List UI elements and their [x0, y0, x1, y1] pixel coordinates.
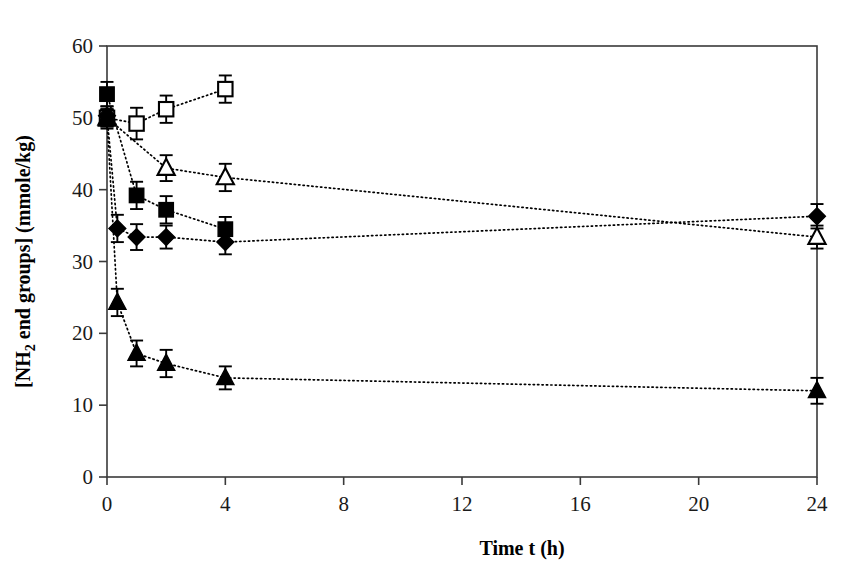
plot-frame [107, 46, 817, 477]
y-axis-tick-label: 10 [72, 393, 93, 417]
data-point-filled-diamond [128, 229, 145, 246]
x-axis-tick-label: 0 [102, 492, 113, 516]
chart-figure: 010203040506004812162024Time t (h)[NH2 e… [0, 0, 857, 579]
data-markers-group [98, 82, 825, 398]
x-axis-tick-label: 8 [338, 492, 349, 516]
y-axis-title: [NH2 end groups] (mmole/kg) [12, 135, 38, 388]
x-axis-tick-label: 12 [452, 492, 473, 516]
series-line-open-triangle [107, 118, 817, 237]
x-axis-title: Time t (h) [479, 537, 564, 560]
data-point-filled-triangle [128, 344, 145, 360]
x-axis-tick-label: 4 [220, 492, 231, 516]
y-axis-tick-label: 20 [72, 321, 93, 345]
data-point-filled-triangle [217, 368, 234, 384]
y-axis-title-subscript: 2 [23, 344, 38, 351]
error-bars-group [101, 75, 824, 403]
data-point-filled-triangle [109, 293, 126, 309]
data-point-open-square [129, 116, 143, 130]
y-axis-tick-label: 30 [72, 250, 93, 274]
y-axis-tick-label: 40 [72, 178, 93, 202]
data-point-filled-diamond [109, 220, 126, 237]
data-point-filled-triangle [158, 354, 175, 370]
data-point-filled-diamond [158, 229, 175, 246]
y-axis-title-prefix: [NH [12, 351, 34, 388]
y-axis-tick-label: 0 [83, 465, 94, 489]
series-line-filled-diamond [107, 116, 817, 242]
amine-end-group-scatter-plot: 010203040506004812162024Time t (h)[NH2 e… [0, 0, 857, 579]
series-lines-group [107, 89, 817, 391]
data-point-open-triangle [158, 159, 175, 175]
x-axis-tick-label: 20 [688, 492, 709, 516]
data-point-open-square [218, 82, 232, 96]
data-point-open-square [159, 102, 173, 116]
data-point-filled-diamond [809, 208, 826, 225]
y-axis-tick-label: 50 [72, 106, 93, 130]
y-axis-title-suffix: end groups] (mmole/kg) [12, 135, 35, 344]
data-point-filled-square [100, 87, 114, 101]
data-point-filled-square [159, 203, 173, 217]
data-point-filled-square [129, 188, 143, 202]
data-point-filled-triangle [808, 381, 825, 397]
x-axis-tick-label: 24 [807, 492, 829, 516]
y-axis-tick-label: 60 [72, 34, 93, 58]
x-axis-tick-label: 16 [570, 492, 591, 516]
series-line-filled-triangle [107, 119, 817, 391]
